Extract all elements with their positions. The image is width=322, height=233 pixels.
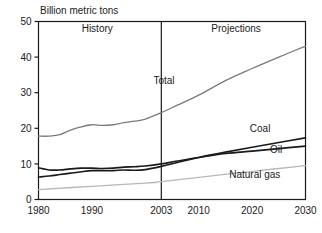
annotation-projections: Projections [211, 23, 260, 34]
series-layer [39, 46, 306, 189]
y-axis-tick-label: 10 [20, 159, 32, 170]
series-line-oil [39, 146, 306, 170]
y-axis-tick-label: 0 [26, 194, 32, 205]
x-axis-tick-label: 2030 [294, 205, 317, 216]
y-axis-tick-label: 30 [20, 87, 32, 98]
x-axis-tick-label: 2003 [150, 205, 173, 216]
y-axis-tick-label: 20 [20, 123, 32, 134]
annotation-history: History [82, 23, 113, 34]
x-axis-tick-label: 2020 [241, 205, 264, 216]
emissions-line-chart: Billion metric tons 01020304050198019902… [0, 0, 322, 233]
x-axis-tick-label: 1980 [27, 205, 50, 216]
annotation-natural-gas: Natural gas [229, 169, 280, 180]
annotation-total: Total [153, 75, 174, 86]
y-axis-tick-label: 40 [20, 52, 32, 63]
x-axis-tick-label: 2010 [188, 205, 211, 216]
plot-canvas: 01020304050198019902003201020202030 Hist… [0, 0, 322, 233]
y-axis-tick-label: 50 [20, 16, 32, 27]
annotation-coal: Coal [250, 123, 271, 134]
label-layer: HistoryProjectionsTotalCoalOilNatural ga… [82, 23, 283, 180]
x-axis-tick-label: 1990 [81, 205, 104, 216]
axis-layer: 01020304050198019902003201020202030 [20, 16, 317, 215]
annotation-oil: Oil [270, 144, 282, 155]
